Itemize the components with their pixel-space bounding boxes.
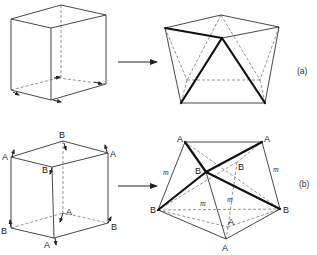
vertex-label-b: B [59, 130, 65, 140]
vertex-label-a: A [264, 134, 270, 144]
polyhedron-a [165, 15, 279, 103]
vertex-label-b: B [1, 226, 7, 236]
panel-tag-a: (a) [297, 66, 308, 76]
cube-b: A B A B A B B A [1, 130, 117, 250]
mirror-label: m [200, 199, 206, 208]
vertex-label-a: A [228, 217, 234, 227]
vertex-label-a: A [177, 134, 183, 144]
mirror-label: m [227, 195, 233, 204]
vertex-label-b: B [42, 165, 48, 175]
vertex-label-b: B [238, 162, 244, 172]
vertex-label-b: B [111, 222, 117, 232]
displacement-arrow [53, 100, 61, 102]
vertex-label-b: B [283, 205, 289, 215]
polyhedron-b: A A B B B B A A m m m m [150, 134, 289, 253]
panel-tag-b: (b) [299, 179, 310, 189]
vertex-label-a: A [222, 243, 228, 253]
mirror-label: m [273, 165, 279, 174]
mirror-label: m [163, 168, 169, 177]
vertex-label-a: A [2, 152, 8, 162]
cube-a [11, 5, 106, 102]
figure-diagram: (a) A B A B A B B A [0, 0, 317, 255]
vertex-label-b: B [195, 166, 201, 176]
vertex-label-b: B [150, 205, 156, 215]
displacement-arrow [13, 92, 19, 95]
vertex-label-a: A [66, 207, 72, 217]
vertex-label-a: A [44, 240, 50, 250]
vertex-label-a: A [110, 149, 116, 159]
